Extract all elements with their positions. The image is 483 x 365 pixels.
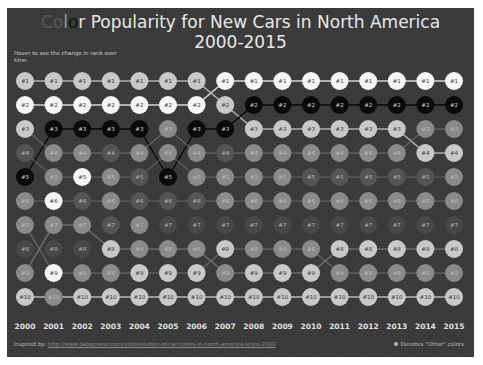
rank-node[interactable]: #3 [159, 120, 177, 138]
rank-node[interactable]: #10 [73, 288, 91, 306]
rank-node[interactable]: #8 [188, 240, 206, 258]
rank-node[interactable]: #9 [159, 264, 177, 282]
rank-node[interactable]: #7 [388, 216, 406, 234]
rank-node[interactable]: #2 [216, 96, 234, 114]
rank-node[interactable]: #10 [388, 288, 406, 306]
rank-node[interactable]: #8 [388, 240, 406, 258]
rank-node[interactable]: #5 [273, 168, 291, 186]
series-line-black[interactable] [25, 105, 454, 177]
rank-node[interactable]: #7 [359, 216, 377, 234]
rank-node[interactable]: #1 [16, 72, 34, 90]
rank-node[interactable]: #6 [216, 192, 234, 210]
rank-node[interactable]: #5 [331, 168, 349, 186]
rank-node[interactable]: #8 [416, 240, 434, 258]
rank-node[interactable]: #8 [216, 240, 234, 258]
rank-node[interactable]: #8 [73, 240, 91, 258]
rank-node[interactable]: #7 [331, 216, 349, 234]
rank-node[interactable]: #7 [245, 216, 263, 234]
rank-node[interactable]: #2 [45, 96, 63, 114]
rank-node[interactable]: #5 [102, 168, 120, 186]
rank-node[interactable]: #6 [416, 192, 434, 210]
rank-node[interactable]: #8 [159, 240, 177, 258]
rank-node[interactable]: #8 [245, 240, 263, 258]
rank-node[interactable]: #1 [159, 72, 177, 90]
rank-node[interactable]: #3 [216, 120, 234, 138]
rank-node[interactable]: #3 [130, 120, 148, 138]
rank-node[interactable]: #9 [45, 264, 63, 282]
rank-node[interactable]: #2 [445, 96, 463, 114]
rank-node[interactable]: #3 [16, 120, 34, 138]
rank-node[interactable]: #4 [359, 144, 377, 162]
rank-node[interactable]: #10 [188, 288, 206, 306]
rank-node[interactable]: #2 [73, 96, 91, 114]
rank-node[interactable]: #8 [102, 240, 120, 258]
rank-node[interactable]: #2 [388, 96, 406, 114]
rank-node[interactable]: #8 [302, 240, 320, 258]
rank-node[interactable]: #10 [445, 288, 463, 306]
rank-node[interactable]: #5 [388, 168, 406, 186]
rank-node[interactable]: #7 [416, 216, 434, 234]
rank-node[interactable]: #4 [216, 144, 234, 162]
rank-node[interactable]: #9 [359, 264, 377, 282]
rank-node[interactable]: #1 [102, 72, 120, 90]
rank-node[interactable]: #1 [245, 72, 263, 90]
rank-node[interactable]: #9 [302, 264, 320, 282]
rank-node[interactable]: #4 [302, 144, 320, 162]
rank-node[interactable]: #8 [331, 240, 349, 258]
rank-node[interactable]: #9 [416, 264, 434, 282]
rank-node[interactable]: #1 [273, 72, 291, 90]
rank-node[interactable]: #4 [273, 144, 291, 162]
rank-node[interactable]: #4 [331, 144, 349, 162]
rank-node[interactable]: #9 [102, 264, 120, 282]
rank-node[interactable]: #6 [245, 192, 263, 210]
rank-node[interactable]: #1 [388, 72, 406, 90]
rank-node[interactable]: #3 [388, 120, 406, 138]
rank-node[interactable]: #6 [302, 192, 320, 210]
rank-node[interactable]: #8 [273, 240, 291, 258]
rank-node[interactable]: #8 [16, 240, 34, 258]
rank-node[interactable]: #1 [445, 72, 463, 90]
rank-node[interactable]: #9 [245, 264, 263, 282]
rank-node[interactable]: #10 [45, 288, 63, 306]
rank-node[interactable]: #4 [416, 144, 434, 162]
rank-node[interactable]: #3 [73, 120, 91, 138]
rank-node[interactable]: #9 [331, 264, 349, 282]
rank-node[interactable]: #3 [416, 120, 434, 138]
rank-node[interactable]: #7 [102, 216, 120, 234]
rank-node[interactable]: #6 [359, 192, 377, 210]
rank-node[interactable]: #10 [245, 288, 263, 306]
rank-node[interactable]: #6 [159, 192, 177, 210]
rank-node[interactable]: #9 [445, 264, 463, 282]
rank-node[interactable]: #10 [216, 288, 234, 306]
rank-node[interactable]: #1 [416, 72, 434, 90]
rank-node[interactable]: #2 [159, 96, 177, 114]
rank-node[interactable]: #4 [245, 144, 263, 162]
rank-node[interactable]: #6 [16, 192, 34, 210]
rank-node[interactable]: #4 [388, 144, 406, 162]
rank-node[interactable]: #9 [188, 264, 206, 282]
rank-node[interactable]: #7 [273, 216, 291, 234]
rank-node[interactable]: #8 [445, 240, 463, 258]
rank-node[interactable]: #4 [130, 144, 148, 162]
rank-node[interactable]: #2 [359, 96, 377, 114]
rank-node[interactable]: #3 [102, 120, 120, 138]
rank-node[interactable]: #4 [73, 144, 91, 162]
rank-node[interactable]: #5 [416, 168, 434, 186]
rank-node[interactable]: #9 [273, 264, 291, 282]
rank-node[interactable]: #5 [73, 168, 91, 186]
rank-node[interactable]: #1 [302, 72, 320, 90]
rank-node[interactable]: #5 [359, 168, 377, 186]
rank-node[interactable]: #9 [388, 264, 406, 282]
rank-node[interactable]: #2 [102, 96, 120, 114]
rank-node[interactable]: #8 [45, 240, 63, 258]
rank-node[interactable]: #7 [16, 216, 34, 234]
rank-node[interactable]: #8 [359, 240, 377, 258]
rank-node[interactable]: #7 [188, 216, 206, 234]
rank-node[interactable]: #1 [73, 72, 91, 90]
rank-node[interactable]: #6 [331, 192, 349, 210]
rank-node[interactable]: #3 [445, 120, 463, 138]
rank-node[interactable]: #10 [302, 288, 320, 306]
rank-node[interactable]: #1 [359, 72, 377, 90]
rank-node[interactable]: #2 [302, 96, 320, 114]
rank-node[interactable]: #3 [331, 120, 349, 138]
